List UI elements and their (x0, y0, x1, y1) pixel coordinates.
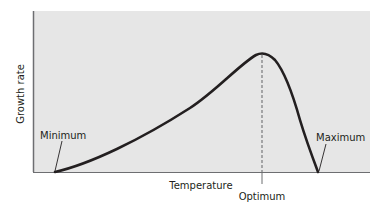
maximum-label: Maximum (316, 132, 365, 143)
x-axis-label: Temperature (168, 180, 232, 191)
y-axis-label: Growth rate (15, 64, 26, 124)
minimum-label: Minimum (40, 130, 86, 141)
optimum-label: Optimum (239, 191, 286, 202)
growth-rate-chart: Growth rate Temperature Minimum Optimum … (0, 0, 386, 208)
plot-area (33, 11, 370, 172)
